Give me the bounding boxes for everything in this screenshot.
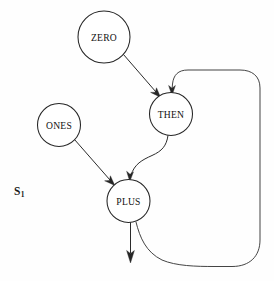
- dataflow-diagram: ZERO ONES THEN PLUS S1: [0, 0, 274, 281]
- node-plus-label: PLUS: [116, 196, 140, 207]
- node-zero-label: ZERO: [91, 32, 117, 43]
- state-label-subscript: 1: [21, 190, 25, 199]
- state-label-base: S: [14, 185, 20, 197]
- node-then[interactable]: THEN: [150, 93, 193, 136]
- node-ones-label: ONES: [46, 120, 72, 131]
- edge-zero-to-then: [124, 55, 157, 93]
- edge-then-to-plus: [131, 136, 168, 176]
- state-label: S1: [14, 186, 24, 198]
- node-plus[interactable]: PLUS: [107, 180, 150, 223]
- node-zero[interactable]: ZERO: [78, 11, 130, 63]
- node-then-label: THEN: [158, 109, 184, 120]
- graph-canvas: ZERO ONES THEN PLUS: [0, 0, 274, 281]
- edge-ones-to-plus: [75, 140, 111, 181]
- arrowhead-ones-to-plus: [105, 176, 115, 186]
- node-ones[interactable]: ONES: [38, 104, 81, 147]
